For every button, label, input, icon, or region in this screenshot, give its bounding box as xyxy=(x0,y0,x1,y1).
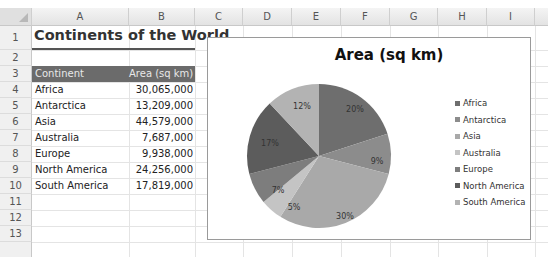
row-header-5[interactable]: 5 xyxy=(0,98,32,114)
row-header-8[interactable]: 8 xyxy=(0,146,32,162)
label-europe: 7% xyxy=(272,186,285,195)
cell-continent[interactable]: Africa xyxy=(35,82,64,98)
row-header-4[interactable]: 4 xyxy=(0,82,32,98)
legend-item-europe[interactable]: Europe xyxy=(455,161,525,178)
cell-area[interactable]: 30,065,000 xyxy=(129,82,193,98)
cell-area[interactable]: 13,209,000 xyxy=(129,98,193,114)
title-underline xyxy=(32,48,195,50)
cell-continent[interactable]: Australia xyxy=(35,130,79,146)
label-australia: 5% xyxy=(288,203,301,212)
row-header-overflow xyxy=(0,242,32,257)
row-header-6[interactable]: 6 xyxy=(0,114,32,130)
legend-item-south-america[interactable]: South America xyxy=(455,194,525,211)
column-header-c[interactable]: C xyxy=(195,8,243,26)
row-header-10[interactable]: 10 xyxy=(0,178,32,194)
legend-swatch-icon xyxy=(455,167,460,172)
grid-line xyxy=(32,242,548,243)
header-cell-continent[interactable]: Continent xyxy=(35,66,84,82)
legend-label: South America xyxy=(463,197,525,207)
legend-swatch-icon xyxy=(455,200,460,205)
spreadsheet: A B C D E F G H I 1 2 3 4 5 6 7 8 9 10 1… xyxy=(0,0,548,257)
column-header-h[interactable]: H xyxy=(438,8,487,26)
legend-swatch-icon xyxy=(455,117,460,122)
cell-area[interactable]: 7,687,000 xyxy=(129,130,193,146)
cell-continent[interactable]: North America xyxy=(35,162,107,178)
cell-area[interactable]: 9,938,000 xyxy=(129,146,193,162)
legend-swatch-icon xyxy=(455,101,460,106)
legend-label: Europe xyxy=(463,164,493,174)
cell-continent[interactable]: Asia xyxy=(35,114,56,130)
legend-item-africa[interactable]: Africa xyxy=(455,95,525,112)
cell-area[interactable]: 44,579,000 xyxy=(129,114,193,130)
column-header-a[interactable]: A xyxy=(32,8,129,26)
sheet-title[interactable]: Continents of the World xyxy=(34,27,229,43)
legend-swatch-icon xyxy=(455,183,460,188)
row-header-9[interactable]: 9 xyxy=(0,162,32,178)
chart-legend[interactable]: Africa Antarctica Asia Australia Europe … xyxy=(455,95,525,211)
column-header-g[interactable]: G xyxy=(390,8,438,26)
legend-item-australia[interactable]: Australia xyxy=(455,145,525,162)
legend-label: North America xyxy=(463,181,525,191)
label-south-america: 12% xyxy=(293,102,311,111)
grid-line xyxy=(195,26,196,257)
column-header-e[interactable]: E xyxy=(292,8,341,26)
select-all-button[interactable] xyxy=(0,8,32,26)
row-header-11[interactable]: 11 xyxy=(0,194,32,210)
label-antarctica: 9% xyxy=(371,157,384,166)
label-north-america: 17% xyxy=(261,139,279,148)
column-header-b[interactable]: B xyxy=(129,8,195,26)
row-header-1[interactable]: 1 xyxy=(0,26,32,50)
row-header-2[interactable]: 2 xyxy=(0,50,32,66)
legend-label: Australia xyxy=(463,148,501,158)
legend-item-asia[interactable]: Asia xyxy=(455,128,525,145)
cell-continent[interactable]: South America xyxy=(35,178,109,194)
legend-label: Africa xyxy=(463,98,487,108)
column-header-overflow xyxy=(535,8,548,26)
cell-continent[interactable]: Europe xyxy=(35,146,70,162)
label-africa: 20% xyxy=(346,105,364,114)
row-header-13[interactable]: 13 xyxy=(0,226,32,242)
cell-area[interactable]: 24,256,000 xyxy=(129,162,193,178)
legend-item-antarctica[interactable]: Antarctica xyxy=(455,112,525,129)
legend-swatch-icon xyxy=(455,150,460,155)
pie-chart[interactable]: Area (sq km) 20% 9% 30% 5% xyxy=(207,37,531,240)
row-header-12[interactable]: 12 xyxy=(0,210,32,226)
select-all-icon xyxy=(19,13,28,22)
legend-swatch-icon xyxy=(455,134,460,139)
column-header-i[interactable]: I xyxy=(487,8,535,26)
legend-label: Antarctica xyxy=(463,115,506,125)
grid-line xyxy=(535,26,536,257)
row-header-7[interactable]: 7 xyxy=(0,130,32,146)
cell-continent[interactable]: Antarctica xyxy=(35,98,86,114)
cell-area[interactable]: 17,819,000 xyxy=(129,178,193,194)
legend-label: Asia xyxy=(463,131,481,141)
legend-item-north-america[interactable]: North America xyxy=(455,178,525,195)
column-header-d[interactable]: D xyxy=(243,8,292,26)
row-header-3[interactable]: 3 xyxy=(0,66,32,82)
column-header-f[interactable]: F xyxy=(341,8,390,26)
label-asia: 30% xyxy=(336,212,354,221)
header-cell-area[interactable]: Area (sq km) xyxy=(129,66,193,82)
